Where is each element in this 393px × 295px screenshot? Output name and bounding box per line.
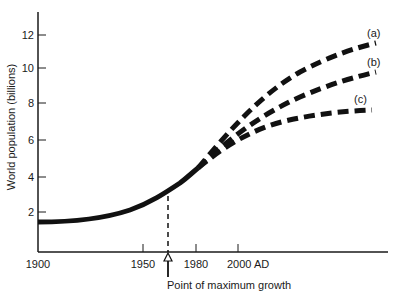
series-historical-line (38, 168, 198, 222)
y-tick-label-10: 10 (22, 62, 34, 74)
y-tick-label-6: 6 (28, 134, 34, 146)
x-tick-label-2000: 2000 AD (227, 258, 269, 270)
up-arrow-icon (164, 253, 172, 261)
annotation-label: Point of maximum growth (167, 279, 291, 291)
series-a-label: (a) (367, 27, 380, 39)
y-tick-label-4: 4 (28, 171, 34, 183)
y-axis-title: World population (billions) (5, 64, 17, 190)
x-tick-label-1900: 1900 (26, 258, 50, 270)
series-c-label: (c) (354, 93, 367, 105)
series-b-label: (b) (367, 56, 380, 68)
population-chart: 12 10 8 6 4 2 World population (billions… (0, 0, 393, 295)
x-tick-label-1950: 1950 (131, 258, 155, 270)
x-ticks (143, 244, 238, 252)
y-tick-label-8: 8 (28, 97, 34, 109)
series-b-line (198, 72, 376, 168)
x-tick-label-1980: 1980 (184, 258, 208, 270)
y-tick-label-2: 2 (28, 206, 34, 218)
y-ticks (38, 35, 46, 212)
y-tick-label-12: 12 (22, 29, 34, 41)
